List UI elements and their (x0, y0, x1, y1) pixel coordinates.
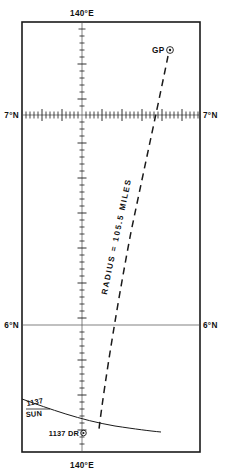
gp-label: GP (152, 46, 165, 55)
gp-symbol (167, 47, 174, 54)
chart-plot-area: 140°E 140°E 7°N 7°N 6°N 6°N GP RADIUS = … (0, 0, 225, 475)
sun-body-label: SUN (26, 409, 43, 419)
radius-annotation-label: RADIUS = 105.5 MILES (100, 178, 133, 296)
dr-position-label: 1137 DR (49, 429, 80, 438)
parallel-6n-right-label: 6°N (203, 321, 218, 330)
parallel-7n-left-label: 7°N (4, 111, 19, 120)
parallel-6n-left-label: 6°N (4, 321, 19, 330)
meridian-top-label: 140°E (70, 9, 94, 18)
meridian-bottom-label: 140°E (70, 461, 94, 470)
parallel-7n-right-label: 7°N (203, 111, 218, 120)
dr-position-symbol (81, 430, 87, 436)
navigation-chart: 140°E 140°E 7°N 7°N 6°N 6°N GP RADIUS = … (0, 0, 225, 475)
